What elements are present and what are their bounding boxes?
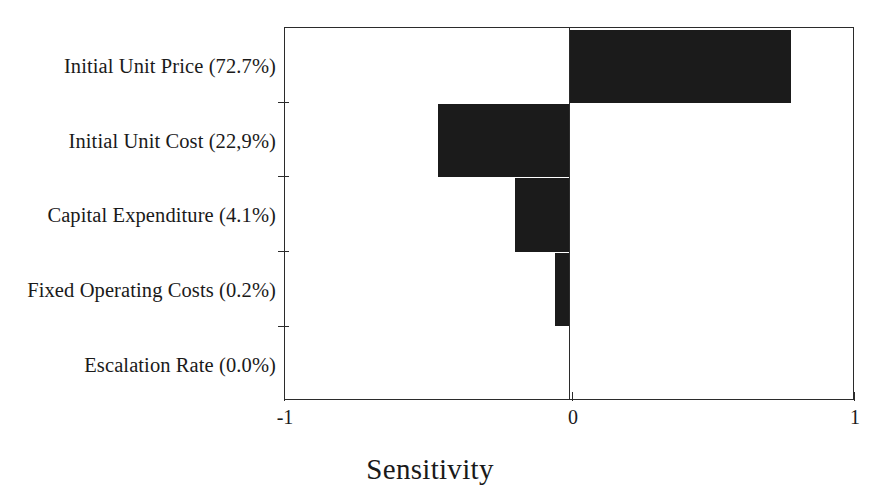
x-tick-label-zero: 0 <box>543 406 603 428</box>
category-label-fixed-operating-costs: Fixed Operating Costs (0.2%) <box>0 279 276 301</box>
y-axis-tick-2 <box>278 176 289 177</box>
zero-reference-line <box>569 27 570 400</box>
category-label-initial-unit-price: Initial Unit Price (72.7%) <box>0 55 276 77</box>
x-axis-tick-plus1 <box>854 392 855 401</box>
x-axis-title: Sensitivity <box>290 452 570 486</box>
tornado-chart: Initial Unit Price (72.7%) Initial Unit … <box>0 0 878 504</box>
bar-capital-expenditure <box>515 178 569 251</box>
bar-initial-unit-cost <box>438 104 569 177</box>
x-axis-tick-minus1 <box>284 392 285 401</box>
y-axis-tick-1 <box>278 102 289 103</box>
bar-initial-unit-price <box>569 30 791 103</box>
bar-fixed-operating-costs <box>555 253 569 326</box>
x-tick-label-minus1: -1 <box>255 406 315 428</box>
x-axis-tick-zero <box>572 392 573 401</box>
category-label-escalation-rate: Escalation Rate (0.0%) <box>0 354 276 376</box>
category-label-initial-unit-cost: Initial Unit Cost (22,9%) <box>0 130 276 152</box>
x-tick-label-plus1: 1 <box>825 406 878 428</box>
y-axis-tick-4 <box>278 326 289 327</box>
category-label-capital-expenditure: Capital Expenditure (4.1%) <box>0 204 276 226</box>
y-axis-tick-3 <box>278 251 289 252</box>
